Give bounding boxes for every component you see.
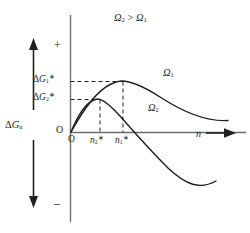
plot-canvas [0, 0, 250, 233]
delta-g-double-arrow [29, 38, 38, 208]
y-tick-label-dg2: ΔG2∗ [33, 92, 55, 103]
x-tick-label-n2: n2∗ [90, 135, 104, 146]
negative-sign-label: – [54, 197, 60, 209]
x-tick-label-n1: n1∗ [115, 135, 129, 146]
curve-label-omega-2: Ω2 [148, 103, 159, 114]
x-tick-label-origin: O [68, 135, 75, 145]
positive-sign-label: + [54, 39, 61, 51]
title-condition: Ω2 > Ω1 [114, 13, 147, 24]
x-axis-title: n [196, 129, 201, 139]
n-axis-arrow [206, 128, 236, 138]
curve-label-omega-1: Ω1 [163, 68, 174, 79]
y-tick-label-dg1: ΔG1∗ [33, 74, 55, 85]
y-axis-title: ΔGn [5, 120, 23, 131]
nucleation-free-energy-figure: Ω2 > Ω1 + – ΔGn ΔG1∗ ΔG2∗ O O n2∗ n1∗ n … [0, 0, 250, 233]
origin-label-axis: O [56, 125, 63, 135]
